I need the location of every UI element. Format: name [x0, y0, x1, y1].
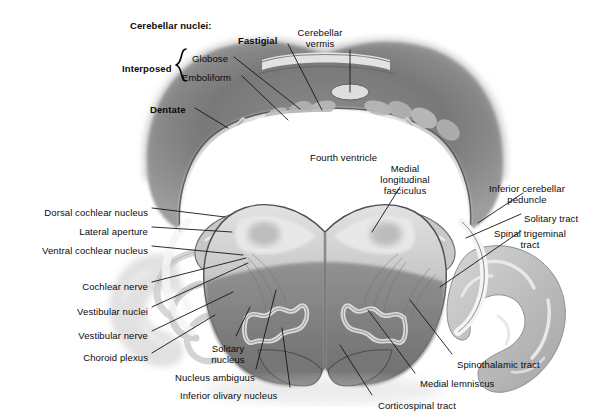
label-lateral-aperture: Lateral aperture [0, 226, 148, 237]
label-emboliform: Emboliform [182, 72, 231, 83]
label-vestibular-nerve: Vestibular nerve [0, 330, 148, 341]
label-nucleus-ambiguus: Nucleus ambiguus [175, 372, 255, 383]
label-medial-lemniscus: Medial lemniscus [420, 378, 494, 389]
label-solitary-tract: Solitary tract [524, 213, 578, 224]
vermis-oval [331, 84, 369, 100]
label-corticospinal-tract: Corticospinal tract [378, 400, 456, 411]
label-medial-longitudinal-fasciculus: Medial longitudinal fasciculus [335, 163, 475, 196]
label-dorsal-cochlear-nucleus: Dorsal cochlear nucleus [0, 207, 148, 218]
label-interposed: Interposed [122, 63, 172, 74]
label-cerebellar-vermis: Cerebellar vermis [250, 27, 390, 49]
label-dentate: Dentate [150, 104, 186, 115]
label-inferior-olivary-nucleus: Inferior olivary nucleus [180, 390, 277, 401]
figure-canvas: Cerebellar nuclei:FastigialCerebellar ve… [0, 0, 615, 418]
label-fourth-ventricle: Fourth ventricle [310, 152, 377, 163]
label-vestibular-nuclei: Vestibular nuclei [0, 306, 148, 317]
label-cochlear-nerve: Cochlear nerve [0, 281, 148, 292]
label-globose: Globose [192, 53, 228, 64]
label-inferior-cerebellar-peduncle: Inferior cerebellar peduncle [457, 183, 597, 205]
label-ventral-cochlear-nucleus: Ventral cochlear nucleus [0, 245, 148, 256]
label-spinal-trigeminal-tract: Spinal trigeminal tract [460, 228, 600, 250]
cerebellar-tonsil-right [447, 246, 565, 393]
label-spinothalamic-tract: Spinothalamic tract [457, 359, 540, 370]
label-choroid-plexus: Choroid plexus [0, 352, 148, 363]
label-solitary-nucleus: Solitary nucleus [158, 343, 298, 365]
label-cerebellar-nuclei-header: Cerebellar nuclei: [130, 20, 212, 31]
